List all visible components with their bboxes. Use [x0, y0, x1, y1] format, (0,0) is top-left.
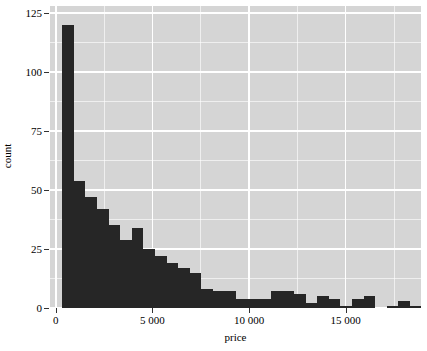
histogram-bar [167, 263, 179, 308]
histogram-bars [50, 6, 421, 308]
histogram-bar [398, 301, 410, 308]
x-axis-tick-label: 0 [53, 314, 59, 327]
histogram-bar [97, 209, 109, 308]
x-axis-tick-label: 15 000 [331, 314, 361, 327]
x-axis-title: price [50, 331, 421, 343]
y-axis-tick-mark [44, 131, 49, 132]
y-axis-tick-label: 125 [12, 8, 42, 19]
y-axis-tick-mark [44, 249, 49, 250]
histogram-bar [85, 197, 97, 308]
x-axis-tick-labels: 05 00010 00015 000 [50, 314, 421, 330]
y-axis-tick-label: 0 [12, 303, 42, 314]
histogram-bar [62, 25, 74, 308]
x-axis-tick-mark [346, 308, 347, 313]
x-axis-tick-mark [56, 308, 57, 313]
histogram-bar [74, 181, 86, 308]
x-axis-tick-label: 5 000 [140, 314, 165, 327]
y-axis-tick-label: 75 [12, 126, 42, 137]
histogram-bar [364, 296, 376, 308]
histogram-figure: count 0255075100125 05 00010 00015 000 p… [0, 0, 427, 351]
x-axis-tick-label: 10 000 [234, 314, 264, 327]
histogram-bar [271, 291, 283, 308]
histogram-bar [178, 268, 190, 308]
histogram-bar [259, 299, 271, 308]
y-axis-tick-label: 50 [12, 185, 42, 196]
y-axis-tick-label: 100 [12, 67, 42, 78]
histogram-bar [132, 228, 144, 308]
histogram-bar [120, 240, 132, 308]
y-axis-tick-mark [44, 190, 49, 191]
y-axis-tick-labels: 0255075100125 [12, 0, 42, 312]
histogram-bar [109, 225, 121, 308]
histogram-bar [317, 296, 329, 308]
histogram-bar [143, 249, 155, 308]
histogram-bar [282, 291, 294, 308]
y-axis-tick-label: 25 [12, 244, 42, 255]
histogram-bar [190, 273, 202, 308]
histogram-bar [294, 294, 306, 308]
histogram-bar [224, 291, 236, 308]
histogram-bar [155, 256, 167, 308]
y-axis-tick-mark [44, 72, 49, 73]
x-axis-tick-mark [249, 308, 250, 313]
histogram-bar [201, 289, 213, 308]
y-axis-tick-mark [44, 13, 49, 14]
x-axis-tick-mark [152, 308, 153, 313]
histogram-bar [213, 291, 225, 308]
plot-panel [50, 6, 421, 308]
histogram-bar [329, 299, 341, 308]
histogram-bar [248, 299, 260, 308]
histogram-bar [352, 299, 364, 308]
histogram-bar [236, 299, 248, 308]
y-axis-tick-mark [44, 308, 49, 309]
